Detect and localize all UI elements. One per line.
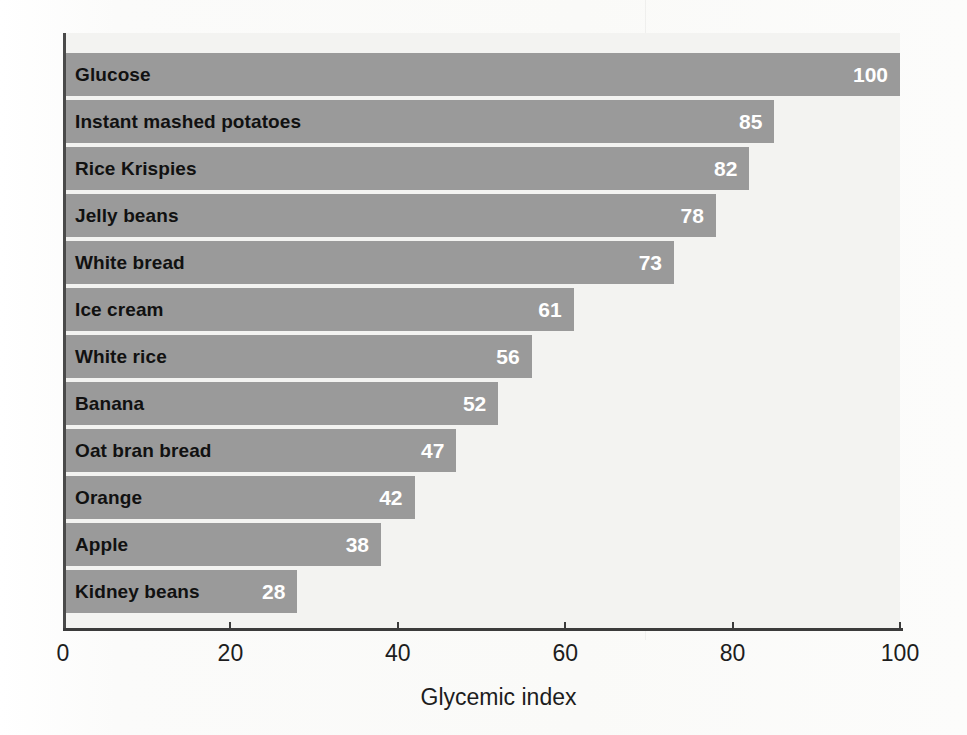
bar-value-label: 28 xyxy=(63,570,285,613)
bar-value-label: 42 xyxy=(63,476,403,519)
x-axis-title: Glycemic index xyxy=(0,684,967,711)
chart-page: Glucose100Instant mashed potatoes85Rice … xyxy=(0,0,967,735)
x-tick-mark xyxy=(564,622,566,631)
x-tick-mark xyxy=(397,622,399,631)
bar-value-label: 73 xyxy=(63,241,662,284)
bar-value-label: 61 xyxy=(63,288,562,331)
x-tick-label: 60 xyxy=(525,640,605,667)
bar-row: Banana52 xyxy=(63,382,900,425)
bar-row: White bread73 xyxy=(63,241,900,284)
y-axis-spine xyxy=(63,33,66,630)
x-tick-label: 20 xyxy=(190,640,270,667)
bar-row: Rice Krispies82 xyxy=(63,147,900,190)
bar-value-label: 82 xyxy=(63,147,737,190)
bar-row: Glucose100 xyxy=(63,53,900,96)
bar-row: Apple38 xyxy=(63,523,900,566)
x-tick-label: 80 xyxy=(693,640,773,667)
bar-row: Ice cream61 xyxy=(63,288,900,331)
x-axis-title-text: Glycemic index xyxy=(421,684,577,710)
x-axis-spine xyxy=(63,628,903,631)
bar-row: Oat bran bread47 xyxy=(63,429,900,472)
bar-value-label: 38 xyxy=(63,523,369,566)
bar-value-label: 56 xyxy=(63,335,520,378)
x-tick-mark xyxy=(732,622,734,631)
x-tick-mark xyxy=(229,622,231,631)
x-tick-mark xyxy=(899,622,901,631)
bar-row: Instant mashed potatoes85 xyxy=(63,100,900,143)
bar-value-label: 52 xyxy=(63,382,486,425)
bar-row: White rice56 xyxy=(63,335,900,378)
x-tick-label: 0 xyxy=(23,640,103,667)
bar-row: Jelly beans78 xyxy=(63,194,900,237)
x-tick-label: 40 xyxy=(358,640,438,667)
bar-row: Kidney beans28 xyxy=(63,570,900,613)
x-tick-label: 100 xyxy=(860,640,940,667)
bar-row: Orange42 xyxy=(63,476,900,519)
bar-value-label: 47 xyxy=(63,429,444,472)
bar-value-label: 100 xyxy=(63,53,888,96)
plot-area: Glucose100Instant mashed potatoes85Rice … xyxy=(63,33,900,630)
bar-value-label: 78 xyxy=(63,194,704,237)
bar-value-label: 85 xyxy=(63,100,762,143)
